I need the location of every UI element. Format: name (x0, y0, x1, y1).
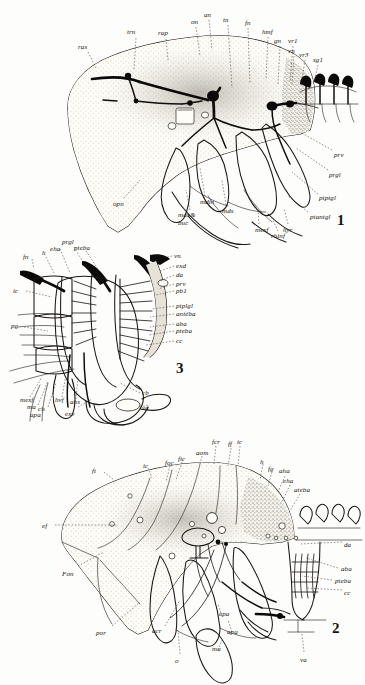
figure-1-label-on: on (191, 19, 198, 26)
figure-3-label-cb: cb (142, 390, 149, 397)
figure-1-label-mdin: mdin (200, 199, 214, 206)
figure-1-label-tn: tn (223, 17, 229, 24)
figure-3-label-prgl: prgl (62, 239, 74, 246)
figure-1-label-opn: opn (113, 201, 124, 208)
figure-1-label-mexf: mexf (255, 227, 269, 234)
figure-1-label-fn: fn (245, 20, 251, 27)
figure-2-label-apa: apa (227, 629, 238, 636)
anatomical-plate: rastrnraponantnfnhmfgnvr1vnvr3sg1prvprgl… (0, 0, 365, 685)
figure-3-label-exd: exd (176, 263, 186, 270)
figure-3-label-vn: vn (174, 253, 181, 260)
figure-2-label-ic: ic (237, 439, 242, 446)
figure-2-label-por: por (96, 630, 106, 637)
figure-2-label-ff: ff (228, 441, 232, 448)
figure-3-label-pb1: pb1 (176, 288, 187, 295)
figure-3-label-hvf: hvf (55, 397, 64, 404)
figure-2-leaders (0, 430, 365, 685)
figure-3-label-antba: antéba (176, 311, 196, 318)
figure-2-label-ateba: ateba (294, 487, 310, 494)
figure-3-label-da: da (176, 272, 183, 279)
figure-2-label-fic: fic (178, 456, 185, 463)
figure-1-label-vr3: vr3 (299, 52, 309, 59)
figure-2-label-fg: fg (268, 466, 274, 473)
figure-1-label-ras: ras (78, 44, 87, 51)
figure-1-label-prv: prv (334, 152, 344, 159)
figure-3-label-pg: pg (11, 323, 18, 330)
figure-2-label-cc: cc (344, 590, 350, 597)
figure-2-label-foc: foc (165, 460, 174, 467)
figure-1-label-vn: vn (288, 48, 295, 55)
figure-1-label-rhinf: rhinf (271, 233, 285, 240)
figure-2-label-pteba: pteba (335, 578, 351, 585)
figure-2-label-eha: eha (283, 478, 293, 485)
figure-3-label-eha: eha (50, 246, 60, 253)
figure-1-label-an: an (204, 12, 211, 19)
figure-1-label-prgl: prgl (329, 172, 341, 179)
figure-3-label-va: va (142, 405, 149, 412)
figure-3-label-apa: apa (30, 412, 41, 419)
figure-2-label-fcr: fcr (212, 439, 220, 446)
figure-2-label-va: va (300, 657, 307, 664)
figure-2-label-acr: acr (152, 628, 162, 635)
figure-number-2: 2 (332, 620, 340, 637)
figure-3-label-pteba: pteba (74, 245, 90, 252)
figure-2-label-fon: Fon (62, 571, 74, 578)
figure-1-label-rap: rap (158, 30, 168, 37)
figure-2-label-ef: ef (42, 523, 47, 530)
figure-2-label-ma: ma (212, 646, 221, 653)
figure-1-label-hmf: hmf (262, 29, 273, 36)
figure-2-label-aom: aom (196, 450, 208, 457)
figure-1-label-sg1: sg1 (313, 57, 323, 64)
figure-1-label-buc: buc (178, 220, 188, 227)
figure-3-label-exv: exv (65, 411, 75, 418)
figure-1-label-ptptgl: ptptgl (319, 195, 336, 202)
figure-1-label-trn: trn (127, 29, 135, 36)
figure-2-label-ic: ic (143, 463, 148, 470)
figure-3-label-fn: fn (23, 254, 29, 261)
figure-3-label-ic: ic (13, 288, 18, 295)
figure-1-label-gn: gn (274, 38, 281, 45)
figure-3-label-pteba: pteba (176, 328, 192, 335)
figure-2-label-aba: aba (341, 566, 352, 573)
figure-2-label-aha: aha (279, 468, 290, 475)
figure-2-label-da: da (344, 542, 351, 549)
figure-3-label-ahs: ahs (70, 399, 80, 406)
figure-3-label-cc: cc (176, 338, 182, 345)
figure-1-label-ptantgl: ptantgl (310, 214, 331, 221)
figure-number-3: 3 (176, 360, 184, 377)
figure-2-label-epa: epa (219, 611, 229, 618)
figure-2-label-ft: ft (92, 468, 96, 475)
figure-1-label-mds: mds (222, 208, 234, 215)
figure-2-label-h: h (260, 459, 264, 466)
figure-number-1: 1 (337, 212, 345, 229)
figure-2-label-o: o (175, 658, 179, 665)
figure-1-label-vr1: vr1 (288, 38, 298, 45)
figure-3-label-h: h (42, 250, 46, 257)
